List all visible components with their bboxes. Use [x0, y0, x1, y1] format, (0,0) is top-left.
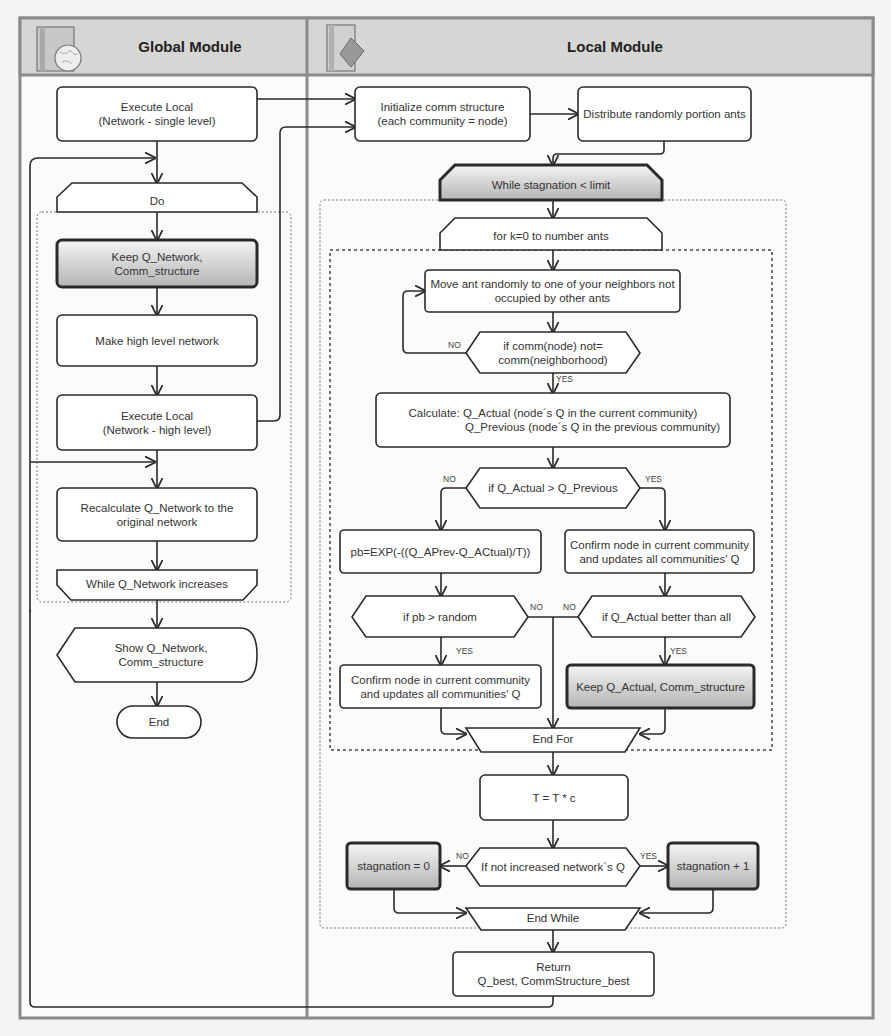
- edge-label-yes-qactual: YES: [645, 474, 662, 484]
- edge-label-yes-better: YES: [670, 646, 687, 656]
- edge-label-no-better: NO: [563, 602, 576, 612]
- edge-label-no-pb: NO: [530, 602, 543, 612]
- edge-label-no-comm: NO: [448, 340, 461, 350]
- edge-label-yes-pb: YES: [456, 646, 473, 656]
- globe-book-icon: [37, 27, 81, 71]
- edge-label-yes-comm: YES: [556, 374, 573, 384]
- edge-label-no-increased: NO: [456, 851, 469, 861]
- edge-label-no-qactual: NO: [443, 474, 456, 484]
- edge-label-yes-increased: YES: [640, 851, 657, 861]
- flowchart-canvas: [0, 0, 891, 1036]
